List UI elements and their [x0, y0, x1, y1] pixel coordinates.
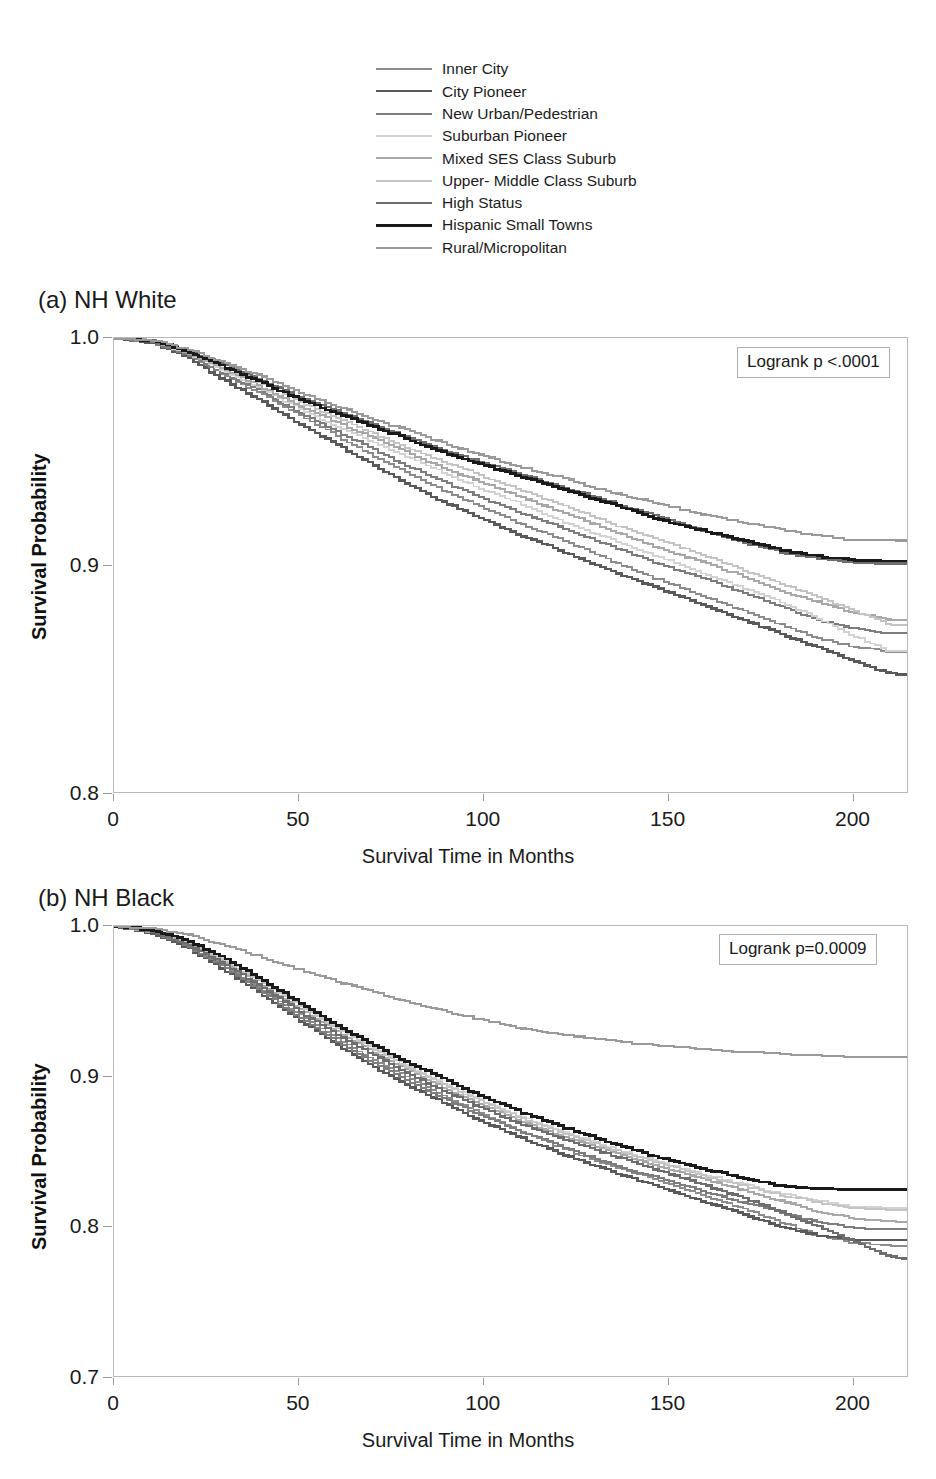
legend-item: Rural/Micropolitan: [376, 236, 676, 258]
legend-line-swatch: [376, 180, 432, 182]
survival-curve: [114, 926, 907, 1229]
y-axis-tick-label: 0.8: [51, 1214, 99, 1238]
legend-line-swatch: [376, 113, 432, 115]
panel-b-plot-area: [113, 925, 908, 1377]
y-axis-tick-mark: [103, 793, 112, 794]
legend-item-label: Rural/Micropolitan: [442, 240, 567, 256]
panel-a-curves: [114, 338, 907, 792]
figure-legend: Inner CityCity PioneerNew Urban/Pedestri…: [376, 58, 676, 259]
legend-item-label: Inner City: [442, 61, 508, 77]
y-axis-tick-mark: [103, 565, 112, 566]
legend-line-swatch: [376, 202, 432, 204]
legend-line-swatch: [376, 247, 432, 249]
y-axis-tick-mark: [103, 1076, 112, 1077]
x-axis-tick-mark: [853, 1378, 854, 1385]
survival-figure: Inner CityCity PioneerNew Urban/Pedestri…: [0, 0, 936, 1479]
panel-a-logrank-annotation: Logrank p <.0001: [737, 347, 890, 378]
x-axis-tick-label: 150: [650, 807, 685, 831]
panel-b-xlabel: Survival Time in Months: [0, 1429, 936, 1452]
x-axis-tick-label: 100: [465, 807, 500, 831]
legend-item: Upper- Middle Class Suburb: [376, 169, 676, 191]
x-axis-tick-mark: [483, 794, 484, 801]
y-axis-tick-label: 1.0: [51, 913, 99, 937]
legend-item-label: New Urban/Pedestrian: [442, 106, 598, 122]
x-axis-tick-label: 100: [465, 1391, 500, 1415]
legend-line-swatch: [376, 90, 432, 92]
panel-b-logrank-annotation: Logrank p=0.0009: [719, 934, 877, 965]
legend-item-label: Upper- Middle Class Suburb: [442, 173, 637, 189]
x-axis-tick-label: 200: [835, 1391, 870, 1415]
panel-b-ylabel: Survival Probability: [28, 1063, 51, 1250]
legend-item-label: High Status: [442, 195, 522, 211]
x-axis-tick-label: 0: [107, 807, 119, 831]
legend-item-label: Suburban Pioneer: [442, 128, 567, 144]
x-axis-tick-label: 50: [286, 1391, 309, 1415]
x-axis-tick-mark: [113, 1378, 114, 1385]
x-axis-tick-mark: [668, 1378, 669, 1385]
legend-item: Suburban Pioneer: [376, 125, 676, 147]
legend-item: Hispanic Small Towns: [376, 214, 676, 236]
legend-line-swatch: [376, 135, 432, 137]
y-axis-tick-mark: [103, 337, 112, 338]
x-axis-tick-mark: [668, 794, 669, 801]
panel-a-xlabel: Survival Time in Months: [0, 845, 936, 868]
legend-item: City Pioneer: [376, 80, 676, 102]
panel-b-curves: [114, 926, 907, 1376]
survival-curve: [114, 927, 907, 1259]
legend-line-swatch: [376, 68, 432, 70]
x-axis-tick-mark: [113, 794, 114, 801]
legend-line-swatch: [376, 157, 432, 159]
y-axis-tick-label: 0.7: [51, 1365, 99, 1389]
x-axis-tick-label: 50: [286, 807, 309, 831]
panel-a-title: (a) NH White: [38, 286, 177, 314]
y-axis-tick-label: 0.8: [51, 781, 99, 805]
legend-item-label: Mixed SES Class Suburb: [442, 151, 616, 167]
panel-a-ylabel: Survival Probability: [28, 453, 51, 640]
survival-curve: [114, 338, 907, 620]
legend-line-swatch: [376, 224, 432, 227]
legend-item: High Status: [376, 192, 676, 214]
y-axis-tick-label: 0.9: [51, 553, 99, 577]
x-axis-tick-label: 200: [835, 807, 870, 831]
legend-item-label: City Pioneer: [442, 84, 526, 100]
y-axis-tick-mark: [103, 1226, 112, 1227]
y-axis-tick-mark: [103, 925, 112, 926]
legend-item: Inner City: [376, 58, 676, 80]
y-axis-tick-label: 0.9: [51, 1064, 99, 1088]
x-axis-tick-label: 0: [107, 1391, 119, 1415]
y-axis-tick-mark: [103, 1377, 112, 1378]
x-axis-tick-mark: [298, 794, 299, 801]
survival-curve: [114, 338, 907, 624]
y-axis-tick-label: 1.0: [51, 325, 99, 349]
x-axis-tick-mark: [483, 1378, 484, 1385]
legend-item-label: Hispanic Small Towns: [442, 217, 592, 233]
x-axis-tick-mark: [298, 1378, 299, 1385]
legend-item: New Urban/Pedestrian: [376, 103, 676, 125]
legend-item: Mixed SES Class Suburb: [376, 147, 676, 169]
x-axis-tick-label: 150: [650, 1391, 685, 1415]
x-axis-tick-mark: [853, 794, 854, 801]
panel-a-plot-area: [113, 337, 908, 793]
panel-b-title: (b) NH Black: [38, 884, 174, 912]
